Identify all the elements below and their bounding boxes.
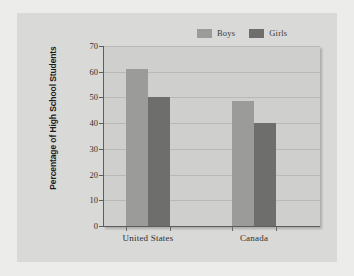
ytick-label-50: 50 bbox=[72, 92, 98, 102]
ytick-label-10: 10 bbox=[72, 195, 98, 205]
legend-swatch-girls bbox=[249, 29, 264, 38]
xtick-mark-1 bbox=[126, 227, 127, 231]
bar-united-states-girls bbox=[148, 97, 170, 226]
legend-label-boys: Boys bbox=[217, 28, 235, 38]
legend-entry-girls: Girls bbox=[249, 28, 287, 38]
xcat-label-canada: Canada bbox=[240, 233, 268, 243]
ytick-label-30: 30 bbox=[72, 144, 98, 154]
ytick-label-0: 0 bbox=[72, 221, 98, 231]
bar-canada-girls bbox=[254, 123, 276, 226]
y-axis-title: Percentage of High School Students bbox=[48, 33, 58, 203]
xtick-mark-3 bbox=[232, 227, 233, 231]
ytick-label-60: 60 bbox=[72, 67, 98, 77]
legend-entry-boys: Boys bbox=[197, 28, 235, 38]
ytick-label-70: 70 bbox=[72, 41, 98, 51]
legend-swatch-boys bbox=[197, 29, 212, 38]
figure-panel: Boys Girls Percentage of High School Stu… bbox=[17, 13, 337, 262]
legend-label-girls: Girls bbox=[269, 28, 287, 38]
chart-legend: Boys Girls bbox=[197, 26, 327, 40]
xcat-label-united-states: United States bbox=[123, 233, 174, 243]
bar-canada-boys bbox=[232, 101, 254, 226]
xtick-mark-4 bbox=[276, 227, 277, 231]
xtick-mark-2 bbox=[170, 227, 171, 231]
y-axis-line bbox=[103, 46, 104, 227]
gridline-70 bbox=[104, 46, 320, 47]
x-axis-line bbox=[103, 226, 320, 227]
ytick-label-20: 20 bbox=[72, 170, 98, 180]
bar-united-states-boys bbox=[126, 69, 148, 226]
plot-wrap: 70 60 50 40 30 20 10 0 United States Can… bbox=[86, 46, 320, 227]
ytick-label-40: 40 bbox=[72, 118, 98, 128]
